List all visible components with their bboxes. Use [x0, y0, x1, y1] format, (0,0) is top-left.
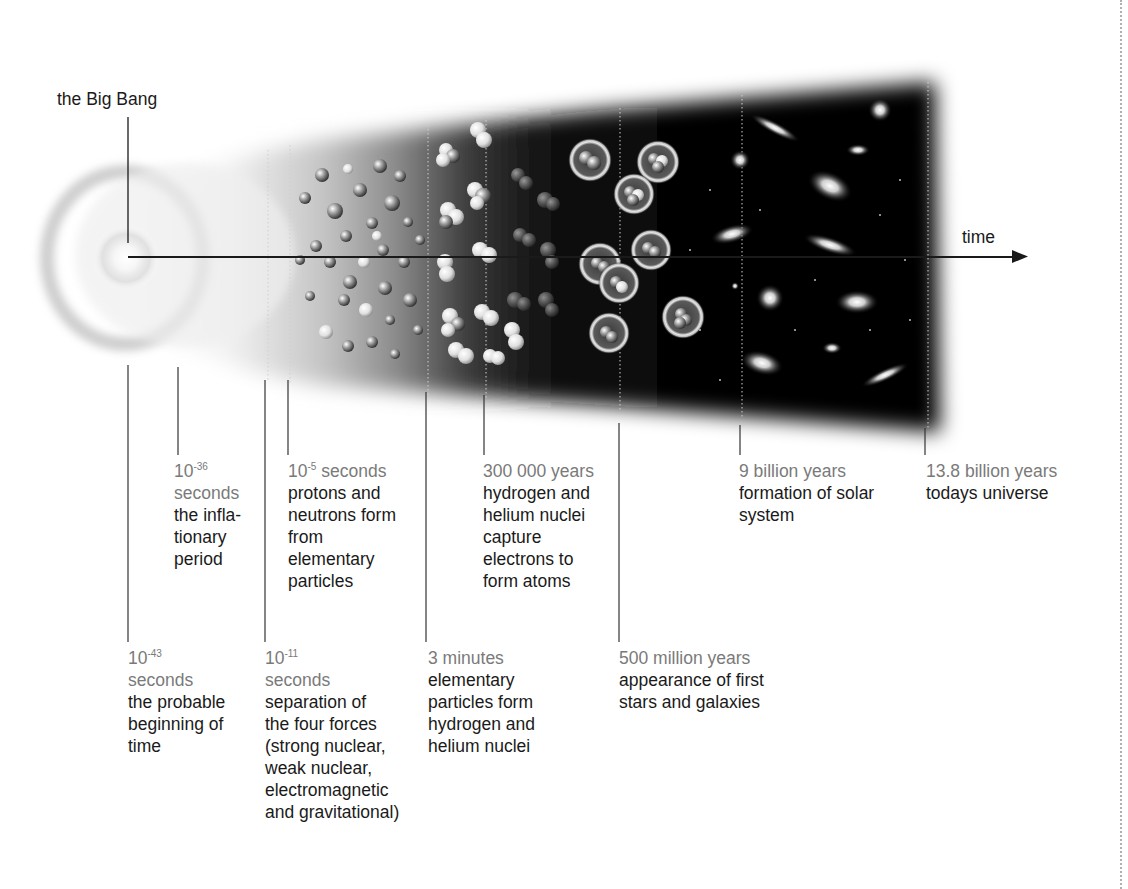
event-time: 9 billion years	[739, 460, 874, 482]
event-forces: 10-11 seconds separation of the four for…	[265, 647, 399, 823]
event-recombination: 300 000 years hydrogen and helium nuclei…	[483, 460, 594, 592]
event-inflation: 10-36 seconds the infla- tionary period	[174, 460, 241, 570]
event-hadrons: 10-5 seconds protons and neutrons form f…	[288, 460, 396, 592]
event-time: 10-43	[128, 647, 225, 669]
event-nucleosynthesis: 3 minutes elementary particles form hydr…	[428, 647, 535, 757]
event-time: 500 million years	[619, 647, 764, 669]
event-first-stars: 500 million years appearance of first st…	[619, 647, 764, 713]
event-planck: 10-43 seconds the probable beginning of …	[128, 647, 225, 757]
event-time: 3 minutes	[428, 647, 535, 669]
event-today: 13.8 billion years todays universe	[926, 460, 1057, 504]
event-time: 300 000 years	[483, 460, 594, 482]
event-time: 10-11	[265, 647, 399, 669]
big-bang-timeline-diagram: the Big Bang time 10-36 seconds the infl…	[0, 0, 1128, 889]
event-time: 10-36	[174, 460, 241, 482]
event-solar-system: 9 billion years formation of solar syste…	[739, 460, 874, 526]
time-axis-label: time	[962, 227, 995, 248]
event-time: 13.8 billion years	[926, 460, 1057, 482]
big-bang-label: the Big Bang	[57, 89, 157, 110]
page-edge-dotted-border	[1120, 0, 1122, 889]
event-time: 10-5 seconds	[288, 460, 396, 482]
